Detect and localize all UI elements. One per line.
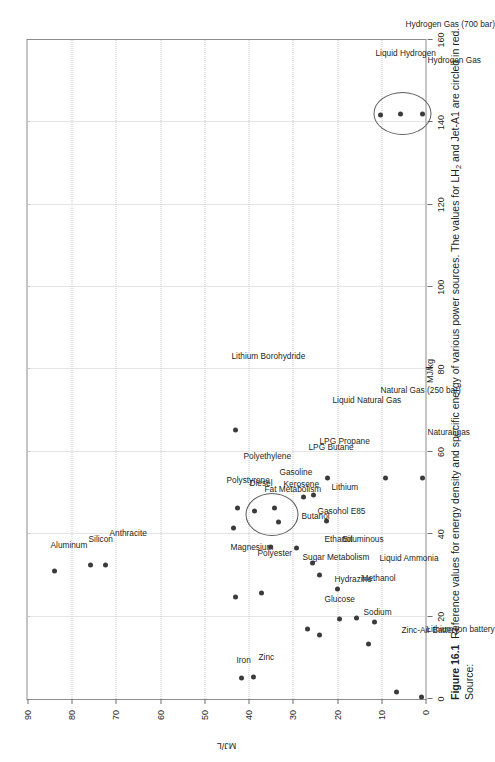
- data-point-label: LPG Propane: [319, 437, 369, 445]
- data-point: [420, 476, 425, 481]
- y-axis-tick-label: 0: [420, 710, 430, 715]
- gridline-vertical: [27, 121, 425, 122]
- data-point: [239, 675, 244, 680]
- y-axis-tick: [425, 699, 426, 704]
- data-point-label: Aluminum: [50, 541, 87, 549]
- data-point: [259, 590, 264, 595]
- data-point: [336, 616, 341, 621]
- gridline-horizontal: [204, 40, 205, 699]
- gridline-horizontal: [71, 40, 72, 699]
- data-point-label: Zinc: [258, 653, 274, 661]
- data-point-label: Gasoline: [279, 468, 312, 476]
- data-point-label: Sodium: [363, 608, 391, 616]
- data-point-label: Lithium Borohydride: [231, 352, 305, 360]
- data-point: [394, 690, 399, 695]
- y-axis-tick-label: 80: [66, 710, 76, 720]
- y-axis-tick-label: 70: [110, 710, 120, 720]
- y-axis-tick: [27, 699, 28, 704]
- data-point-label: Kerosene: [283, 480, 319, 488]
- data-point: [251, 675, 256, 680]
- gridline-horizontal: [292, 40, 293, 699]
- figure-number: Figure 16.1: [448, 645, 460, 700]
- data-point-label: Liquid Ammonia: [379, 554, 438, 562]
- y-axis-title: MJ/L: [216, 741, 236, 751]
- data-point: [275, 519, 280, 524]
- data-point: [378, 112, 383, 117]
- y-axis-tick-label: 50: [199, 710, 209, 720]
- gridline-vertical: [27, 286, 425, 287]
- data-point-label: Liquid Natural Gas: [332, 396, 401, 404]
- x-axis-tick: [427, 533, 432, 534]
- data-point: [418, 694, 423, 699]
- data-point-label: Sugar Metabolism: [302, 553, 369, 561]
- data-point: [87, 562, 92, 567]
- x-axis-tick-label: 20: [435, 612, 445, 622]
- data-point: [324, 519, 329, 524]
- gridline-horizontal: [381, 40, 382, 699]
- data-point: [300, 494, 305, 499]
- scatter-plot-area: 0204060801001201401600102030405060708090…: [26, 39, 426, 700]
- y-axis-tick: [204, 699, 205, 704]
- x-axis-tick: [427, 451, 432, 452]
- x-axis-tick-label: 0: [435, 696, 445, 701]
- data-point: [372, 620, 377, 625]
- y-axis-tick: [248, 699, 249, 704]
- figure-caption: Figure 16.1 Reference values for energy …: [448, 10, 476, 700]
- data-point: [334, 587, 339, 592]
- data-point: [305, 626, 310, 631]
- data-point: [354, 615, 359, 620]
- x-axis-tick-label: 140: [435, 115, 445, 130]
- y-axis-tick: [292, 699, 293, 704]
- data-point: [311, 492, 316, 497]
- y-axis-tick-label: 10: [376, 710, 386, 720]
- y-axis-tick-label: 40: [243, 710, 253, 720]
- data-point: [252, 509, 257, 514]
- y-axis-tick: [160, 699, 161, 704]
- data-point: [317, 632, 322, 637]
- y-axis-tick: [71, 699, 72, 704]
- data-point: [324, 476, 329, 481]
- x-axis-tick-label: 60: [435, 447, 445, 457]
- data-point: [293, 546, 298, 551]
- data-point-label: Anthracite: [109, 529, 146, 537]
- data-point: [419, 112, 424, 117]
- x-axis-tick: [427, 698, 432, 699]
- data-point: [316, 573, 321, 578]
- data-point: [366, 642, 371, 647]
- y-axis-tick: [337, 699, 338, 704]
- x-axis-tick-label: 80: [435, 364, 445, 374]
- y-axis-tick-label: 90: [22, 710, 32, 720]
- x-axis-tick: [427, 616, 432, 617]
- y-axis-tick-label: 60: [155, 710, 165, 720]
- x-axis-tick: [427, 286, 432, 287]
- x-axis-tick-label: 40: [435, 529, 445, 539]
- data-point-label: Lithium: [331, 483, 358, 491]
- data-point-label: Glucose: [324, 595, 354, 603]
- data-point-label: Iron: [236, 656, 250, 664]
- x-axis-tick: [427, 39, 432, 40]
- data-point: [271, 505, 276, 510]
- data-point-label: Bituminous: [342, 535, 383, 543]
- x-axis-tick-label: 160: [435, 32, 445, 47]
- x-axis-tick-label: 100: [435, 280, 445, 295]
- gridline-horizontal: [160, 40, 161, 699]
- caption-text: Reference values for energy density and …: [448, 169, 460, 639]
- y-axis-tick-label: 20: [332, 710, 342, 720]
- data-point: [234, 506, 239, 511]
- x-axis-tick-label: 120: [435, 197, 445, 212]
- data-point-label: Methanol: [361, 574, 395, 582]
- caption-subscript: 2: [453, 165, 462, 169]
- y-axis-tick-label: 30: [287, 710, 297, 720]
- x-axis-tick: [427, 121, 432, 122]
- gridline-vertical: [27, 204, 425, 205]
- data-point-label: Polyester: [257, 549, 292, 557]
- data-point: [52, 569, 57, 574]
- gridline-vertical: [27, 369, 425, 370]
- gridline-horizontal: [115, 40, 116, 699]
- circle-fuels-annotation: [245, 493, 298, 536]
- data-point: [382, 476, 387, 481]
- x-axis-tick: [427, 204, 432, 205]
- x-axis-title: MJ/kg: [424, 359, 434, 383]
- y-axis-tick: [115, 699, 116, 704]
